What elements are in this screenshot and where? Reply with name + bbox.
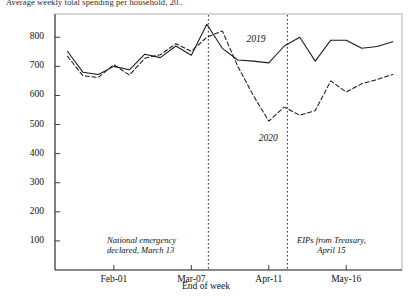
y-tick-label: 500 (14, 119, 44, 129)
x-axis-title: End of week (0, 281, 412, 291)
annotation-national-emergency: National emergencydeclared, March 13 (107, 236, 176, 255)
chart-container: Average weekly total spending per househ… (0, 0, 412, 297)
y-tick-label: 400 (14, 148, 44, 158)
x-axis-ticks (114, 265, 346, 270)
series-label-2020: 2020 (259, 133, 278, 143)
y-tick-label: 800 (14, 31, 44, 41)
annotation-line-2: declared, March 13 (107, 246, 176, 256)
y-tick-label: 600 (14, 89, 44, 99)
annotation-eips-treasury: EIPs from Treasury,April 15 (297, 236, 366, 255)
y-tick-label: 200 (14, 206, 44, 216)
annotation-line-2: April 15 (297, 246, 366, 256)
y-tick-label: 100 (14, 235, 44, 245)
y-axis-ticks (55, 37, 60, 241)
data-series (67, 24, 392, 121)
series-line-2020 (67, 31, 392, 121)
y-tick-label: 300 (14, 177, 44, 187)
y-tick-label: 700 (14, 60, 44, 70)
series-label-2019: 2019 (246, 34, 265, 44)
